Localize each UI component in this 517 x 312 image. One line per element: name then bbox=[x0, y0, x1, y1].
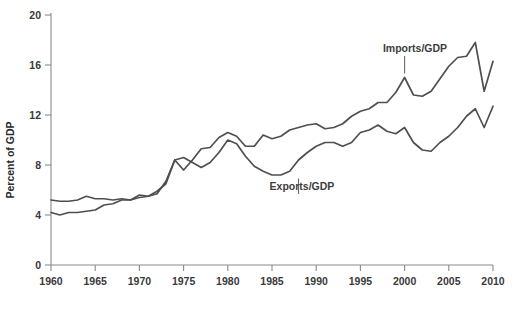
x-tick-label-1965: 1965 bbox=[84, 275, 108, 287]
chart-container: Percent of GDP 048121620 196019651970197… bbox=[0, 0, 517, 312]
x-tick-label-1960: 1960 bbox=[39, 275, 63, 287]
x-tick-label-1985: 1985 bbox=[260, 275, 284, 287]
x-tick-label-2000: 2000 bbox=[393, 275, 417, 287]
y-tick-label-20: 20 bbox=[29, 9, 41, 21]
x-tick-label-1980: 1980 bbox=[216, 275, 240, 287]
y-tick-label-12: 12 bbox=[29, 109, 41, 121]
x-tick-label-1970: 1970 bbox=[128, 275, 152, 287]
x-tick-label-2010: 2010 bbox=[481, 275, 505, 287]
y-tick-label-16: 16 bbox=[29, 59, 41, 71]
y-tick-label-8: 8 bbox=[35, 159, 41, 171]
x-axis-ticks: 1960196519701975198019851990199520002005… bbox=[39, 265, 505, 287]
y-axis-title: Percent of GDP bbox=[4, 121, 16, 198]
y-axis-ticks: 048121620 bbox=[29, 9, 51, 271]
line-chart: Percent of GDP 048121620 196019651970197… bbox=[0, 0, 517, 312]
x-tick-label-1990: 1990 bbox=[305, 275, 329, 287]
series-label-exports-gdp: Exports/GDP bbox=[270, 180, 335, 192]
y-tick-label-4: 4 bbox=[35, 209, 41, 221]
y-tick-label-0: 0 bbox=[35, 259, 41, 271]
x-tick-label-1975: 1975 bbox=[172, 275, 196, 287]
series-label-imports-gdp: Imports/GDP bbox=[383, 42, 447, 54]
x-tick-label-1995: 1995 bbox=[349, 275, 373, 287]
x-tick-label-2005: 2005 bbox=[437, 275, 461, 287]
series-annotations: Imports/GDPExports/GDP bbox=[270, 42, 447, 194]
